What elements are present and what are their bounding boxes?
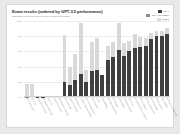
y-axis-tick-label: 40% (18, 65, 23, 68)
bar-segment-gpt4 (149, 39, 153, 97)
bar[interactable] (106, 35, 110, 97)
bar-segment-gpt4 (106, 60, 110, 97)
bar-segment-gpt4 (68, 85, 72, 97)
bar-segment-gpt35 (95, 38, 99, 70)
bar[interactable] (90, 32, 94, 97)
bar-segment-gpt4 (100, 75, 104, 97)
bar-group: AP Calculus BCAMC 12Codeforces RatingAP … (24, 21, 170, 97)
bar[interactable] (25, 65, 29, 97)
bar-segment-gpt4 (165, 34, 169, 97)
y-axis-tick-label: 20% (18, 80, 23, 83)
bar-segment-gpt35 (122, 43, 126, 55)
chart-legend: gpt-4 gpt-4 (no vision) gpt3.5 (146, 10, 169, 21)
chart-title: Exam results (ordered by GPT-3.5 perform… (12, 9, 103, 14)
bar[interactable] (95, 30, 99, 97)
bar-segment-gpt35 (127, 41, 131, 51)
bar[interactable] (79, 22, 83, 97)
bar-segment-gpt35 (117, 23, 121, 50)
bar[interactable] (160, 26, 164, 97)
bar-segment-gpt4 (127, 51, 131, 97)
bar[interactable] (127, 32, 131, 97)
legend-swatch-gpt4-no-vision (146, 14, 150, 17)
bar-segment-gpt4 (155, 36, 159, 97)
bar-segment-gpt35 (111, 42, 115, 57)
chart-card: Exam results (ordered by GPT-3.5 perform… (6, 4, 174, 128)
bar[interactable] (73, 40, 77, 97)
bar[interactable] (57, 86, 61, 97)
bar-segment-gpt4 (144, 46, 148, 97)
bar-segment-gpt4 (95, 70, 99, 97)
bar-segment-gpt35 (84, 70, 88, 82)
bar-segment-gpt35 (90, 42, 94, 71)
plot-area: 100%80%60%40%20%0% AP Calculus BCAMC 12C… (24, 21, 170, 97)
bar-segment-gpt35 (73, 54, 77, 80)
bar-segment-gpt4 (138, 47, 142, 97)
bar[interactable] (165, 25, 169, 97)
bar[interactable] (155, 26, 159, 97)
bar-segment-gpt4 (111, 57, 115, 97)
chart-subtitle: Estimated percentile lower bound (among … (12, 15, 70, 18)
bar[interactable] (122, 33, 126, 97)
bar[interactable] (30, 65, 34, 97)
bar-slot[interactable]: AP Human Geography (165, 21, 170, 97)
bar[interactable] (63, 29, 67, 97)
x-axis-tick-label: AMC 10 (48, 97, 53, 104)
legend-label: gpt-4 (164, 10, 169, 13)
bar-segment-gpt4 (160, 36, 164, 97)
x-axis-line (24, 96, 170, 97)
bar-segment-gpt4 (133, 48, 137, 97)
bar-segment-gpt4 (84, 82, 88, 97)
bar-segment-gpt35 (106, 46, 110, 60)
bar-segment-gpt4 (63, 82, 67, 97)
x-axis-tick-label: AMC 12 (32, 97, 37, 104)
bar-segment-gpt35 (63, 35, 67, 82)
bar[interactable] (117, 22, 121, 97)
bar[interactable] (144, 30, 148, 97)
bar[interactable] (111, 32, 115, 97)
bar[interactable] (133, 28, 137, 97)
y-axis-tick-label: 60% (18, 50, 23, 53)
x-axis-tick-label: LSAT (97, 97, 101, 102)
legend-swatch-gpt4 (158, 10, 162, 13)
bar-segment-gpt4 (122, 56, 126, 97)
bar-segment-gpt35 (133, 34, 137, 48)
y-axis-tick-label: 100% (16, 20, 22, 23)
bar[interactable] (100, 56, 104, 97)
bar-segment-gpt4 (117, 50, 121, 97)
bar-segment-gpt4 (73, 80, 77, 97)
bar[interactable] (68, 49, 72, 97)
bar-segment-gpt35 (144, 38, 148, 45)
bar-segment-gpt4 (90, 71, 94, 97)
bar-segment-gpt4 (79, 74, 83, 97)
bar[interactable] (138, 29, 142, 97)
bar-segment-gpt35 (138, 37, 142, 47)
legend-item[interactable]: gpt-4 (no vision) (146, 14, 169, 17)
bar-segment-gpt35 (25, 84, 29, 97)
bar[interactable] (84, 51, 88, 97)
y-axis-tick-label: 0% (19, 96, 22, 99)
legend-label: gpt-4 (no vision) (152, 14, 169, 17)
bar[interactable] (149, 27, 153, 97)
bar-segment-gpt35 (30, 84, 34, 96)
bar-segment-gpt35 (68, 67, 72, 85)
legend-item[interactable]: gpt-4 (158, 10, 169, 13)
y-axis-tick-label: 80% (18, 35, 23, 38)
x-axis-tick-label: AP Human Geography (167, 97, 178, 116)
bar-segment-gpt35 (79, 23, 83, 74)
